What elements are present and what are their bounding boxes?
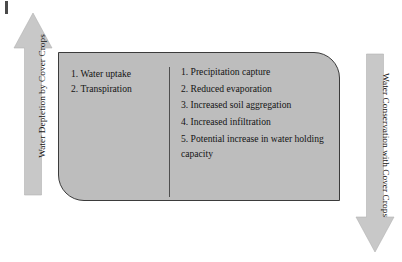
panel-divider <box>169 67 170 197</box>
list-item: 1. Precipitation capture <box>181 64 333 79</box>
list-item: 4. Increased infiltration <box>181 114 333 129</box>
water-conservation-list: 1. Precipitation capture 2. Reduced evap… <box>181 64 333 163</box>
water-depletion-arrow-label: Water Depletion by Cover Crops <box>37 6 47 186</box>
water-depletion-list: 1. Water uptake 2. Transpiration <box>71 66 167 96</box>
list-item: 3. Increased soil aggregation <box>181 97 333 112</box>
list-item: 5. Potential increase in water holding c… <box>181 131 333 161</box>
list-item: 2. Reduced evaporation <box>181 81 333 96</box>
water-depletion-arrow: Water Depletion by Cover Crops <box>14 13 52 195</box>
water-conservation-arrow-label: Water Conservation with Cover Crops <box>381 49 391 241</box>
diagram-canvas: Water Depletion by Cover Crops Water Con… <box>0 0 402 262</box>
list-item: 1. Water uptake <box>71 66 167 81</box>
water-conservation-arrow: Water Conservation with Cover Crops <box>356 54 394 252</box>
corner-mark <box>5 1 8 14</box>
list-item: 2. Transpiration <box>71 81 167 96</box>
cover-crop-water-panel: 1. Water uptake 2. Transpiration 1. Prec… <box>58 52 340 201</box>
